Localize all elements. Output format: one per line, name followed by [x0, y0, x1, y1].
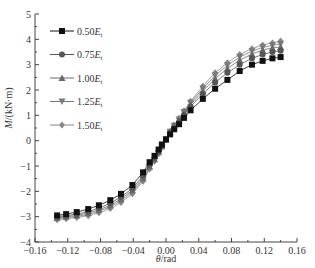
- legend-marker: [59, 122, 65, 129]
- data-point: [269, 49, 275, 55]
- x-tick-label: −0.12: [56, 245, 79, 256]
- data-point: [212, 79, 218, 85]
- y-tick-label: −1: [20, 161, 31, 172]
- x-tick-label: −0.08: [89, 245, 112, 256]
- data-point: [237, 68, 243, 74]
- y-tick-label: 2: [26, 85, 31, 96]
- data-point: [278, 54, 284, 60]
- x-tick-label: 0.04: [190, 245, 208, 256]
- legend-item: 0.75Et: [50, 49, 103, 62]
- x-tick-label: 0.12: [256, 245, 274, 256]
- data-point: [260, 52, 266, 58]
- data-point: [96, 202, 102, 208]
- data-point: [63, 211, 69, 217]
- legend-marker: [59, 52, 65, 58]
- y-tick-label: 0: [26, 135, 31, 146]
- data-point: [224, 77, 230, 83]
- data-point: [188, 107, 194, 113]
- data-point: [74, 209, 80, 215]
- legend-item: 1.00Et: [50, 73, 103, 86]
- legend-label: 0.75Et: [77, 49, 103, 62]
- data-point: [249, 62, 255, 68]
- legend-item: 1.50Et: [50, 120, 103, 133]
- data-point: [118, 191, 124, 197]
- y-tick-label: −3: [20, 211, 31, 222]
- y-tick-label: 5: [26, 9, 31, 20]
- data-point: [54, 212, 60, 218]
- data-point: [249, 55, 255, 61]
- x-tick-label: 0.16: [288, 245, 306, 256]
- y-tick-label: −2: [20, 186, 31, 197]
- data-point: [129, 182, 135, 188]
- y-axis-title: M/(kN·m): [3, 87, 15, 129]
- legend-marker: [59, 28, 65, 34]
- data-point: [269, 55, 275, 61]
- data-point: [85, 206, 91, 212]
- x-tick-label: 0.08: [223, 245, 241, 256]
- x-axis-title: θ/rad: [156, 253, 176, 264]
- data-point: [260, 58, 266, 64]
- data-point: [224, 70, 230, 76]
- data-point: [278, 48, 284, 54]
- data-point: [212, 86, 218, 92]
- x-tick-label: −0.04: [122, 245, 145, 256]
- legend-label: 1.25Et: [77, 96, 103, 109]
- data-point: [152, 153, 158, 159]
- data-point: [140, 169, 146, 175]
- x-tick-label: −0.16: [23, 245, 46, 256]
- data-point: [237, 62, 243, 68]
- legend-item: 1.25Et: [50, 96, 103, 109]
- hysteresis-chart: −4−3−2−1012345−0.16−0.12−0.08−0.040.000.…: [0, 0, 315, 268]
- data-point: [176, 121, 182, 127]
- data-point: [181, 115, 187, 121]
- y-tick-label: 3: [26, 59, 31, 70]
- legend: 0.50Et0.75Et1.00Et1.25Et1.50Et: [50, 26, 103, 133]
- data-point: [200, 96, 206, 102]
- y-tick-label: 1: [26, 110, 31, 121]
- legend-label: 0.50Et: [77, 26, 103, 39]
- legend-label: 1.00Et: [77, 73, 103, 86]
- data-point: [147, 159, 153, 165]
- legend-label: 1.50Et: [77, 120, 103, 133]
- legend-item: 0.50Et: [50, 26, 103, 39]
- data-point: [107, 197, 113, 203]
- y-tick-label: 4: [26, 34, 31, 45]
